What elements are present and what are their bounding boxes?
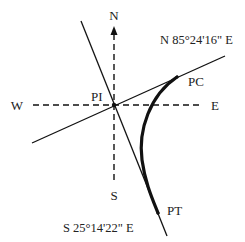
pi-point-marker xyxy=(112,103,116,107)
pi-label: PI xyxy=(91,89,103,104)
horizontal-curve-arc xyxy=(141,77,177,213)
south-label: S xyxy=(110,188,117,203)
back-tangent-line xyxy=(32,56,225,143)
pt-point-marker xyxy=(156,211,159,214)
tangent-lines xyxy=(32,21,225,236)
curve-diagram: N S W E PI PC PT N 85°24'16" E S 25°14'2… xyxy=(0,0,245,242)
east-label: E xyxy=(211,98,219,113)
west-label: W xyxy=(11,98,24,113)
north-arrow-icon xyxy=(111,26,118,35)
pc-point-marker xyxy=(175,75,178,78)
pt-label: PT xyxy=(167,203,182,218)
forward-tangent-bearing: S 25°14'22" E xyxy=(63,221,134,235)
north-label: N xyxy=(109,8,119,23)
back-tangent-bearing: N 85°24'16" E xyxy=(160,33,233,47)
pc-label: PC xyxy=(188,74,204,89)
